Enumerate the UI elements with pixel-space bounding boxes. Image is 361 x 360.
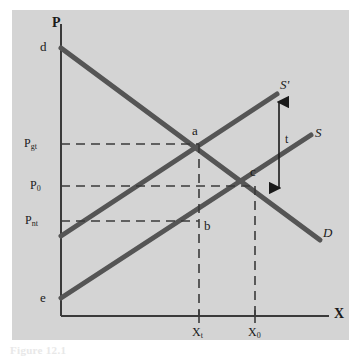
x-tick-xt-sub: t: [201, 331, 203, 340]
point-label-a: a: [192, 124, 198, 137]
point-label-b: b: [204, 219, 211, 232]
tax-wedge-label: t: [285, 133, 288, 145]
y-tick-pgt-sub: gt: [31, 142, 37, 151]
y-tick-pgt-main: P: [24, 136, 31, 150]
y-axis-label: P: [52, 16, 61, 30]
supply-intercept-label-e: e: [40, 291, 46, 304]
supply-with-tax-curve-label: S': [280, 78, 289, 91]
x-tick-x0-sub: 0: [257, 331, 261, 340]
figure-caption: Figure 12.1: [10, 344, 66, 356]
supply-with-tax-curve: [61, 94, 277, 236]
supply-curve: [61, 135, 311, 298]
demand-curve-label: D: [323, 226, 332, 239]
y-tick-p0-sub: 0: [37, 184, 41, 193]
point-label-c: c: [250, 165, 256, 178]
x-tick-label-x0: X0: [248, 326, 261, 338]
supply-curve-label: S: [315, 126, 322, 139]
x-axis-label: X: [334, 307, 344, 321]
x-tick-x0-main: X: [248, 325, 257, 339]
chart-panel: P X d e D S S' a b c t Pgt P0 Pnt Xt X0: [12, 10, 349, 340]
y-tick-pnt-sub: nt: [32, 219, 38, 228]
y-tick-label-p0: P0: [30, 179, 41, 191]
y-tick-pnt-main: P: [25, 213, 32, 227]
x-tick-xt-main: X: [192, 325, 201, 339]
figure-container: P X d e D S S' a b c t Pgt P0 Pnt Xt X0 …: [0, 0, 361, 360]
demand-intercept-label-d: d: [40, 40, 47, 53]
x-tick-label-xt: Xt: [192, 326, 203, 338]
y-tick-label-pgt: Pgt: [24, 137, 37, 149]
y-tick-label-pnt: Pnt: [25, 214, 38, 226]
y-tick-p0-main: P: [30, 178, 37, 192]
supply-demand-chart: [12, 10, 349, 340]
